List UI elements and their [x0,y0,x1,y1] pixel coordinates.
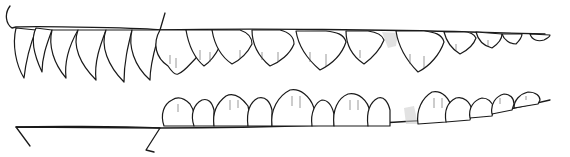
tooth-rows-illustration [0,0,570,157]
lower-tooth-row [16,90,550,128]
upper-tooth-row [6,6,550,82]
scale-bar [16,127,160,152]
